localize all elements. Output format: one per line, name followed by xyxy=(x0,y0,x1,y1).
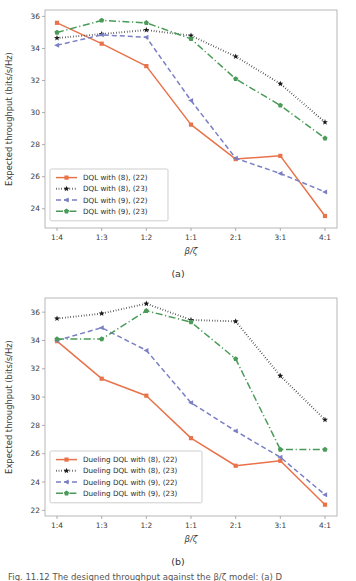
legend-label: DQL with (9), (22) xyxy=(83,196,148,205)
y-tick-label: 30 xyxy=(31,108,41,117)
y-tick-label: 32 xyxy=(31,364,40,373)
y-tick-label: 32 xyxy=(31,76,40,85)
x-axis-title: β/ζ xyxy=(183,246,198,256)
x-tick-label: 1:1 xyxy=(185,521,197,530)
panel-b-caption: (b) xyxy=(0,556,356,567)
x-tick-label: 2:1 xyxy=(230,233,242,242)
legend-label: DQL with (9), (23) xyxy=(83,207,148,216)
x-tick-label: 1:4 xyxy=(51,233,63,242)
x-tick-label: 4:1 xyxy=(319,521,331,530)
chart-a-svg: 242628303234361:41:31:21:12:13:14:1β/ζEx… xyxy=(0,0,356,290)
series-line xyxy=(57,35,325,192)
y-tick-label: 30 xyxy=(31,393,41,402)
y-tick-label: 24 xyxy=(31,478,41,487)
x-tick-label: 3:1 xyxy=(274,233,286,242)
x-tick-label: 1:2 xyxy=(140,233,152,242)
y-tick-label: 22 xyxy=(31,506,40,515)
x-tick-label: 1:3 xyxy=(96,521,108,530)
x-tick-label: 1:1 xyxy=(185,233,197,242)
y-axis-title: Expected throughput (bits/s/Hz) xyxy=(4,340,14,474)
legend-label: Dueling DQL with (8), (22) xyxy=(83,455,178,464)
y-tick-label: 24 xyxy=(31,204,41,213)
chart-b-svg: 22242628303234361:41:31:21:12:13:14:1β/ζ… xyxy=(0,290,356,580)
panel-a-caption: (a) xyxy=(0,268,356,279)
y-tick-label: 28 xyxy=(31,421,41,430)
y-tick-label: 26 xyxy=(31,172,41,181)
x-tick-label: 1:2 xyxy=(140,521,152,530)
chart-panel-b: 22242628303234361:41:31:21:12:13:14:1β/ζ… xyxy=(0,290,356,580)
y-tick-label: 28 xyxy=(31,140,41,149)
x-tick-label: 4:1 xyxy=(319,233,331,242)
x-tick-label: 3:1 xyxy=(274,521,286,530)
figure-container: 242628303234361:41:31:21:12:13:14:1β/ζEx… xyxy=(0,0,356,581)
chart-panel-a: 242628303234361:41:31:21:12:13:14:1β/ζEx… xyxy=(0,0,356,290)
x-tick-label: 1:4 xyxy=(51,521,63,530)
y-tick-label: 36 xyxy=(31,12,41,21)
y-tick-label: 34 xyxy=(31,44,41,53)
y-tick-label: 26 xyxy=(31,449,41,458)
y-tick-label: 34 xyxy=(31,336,41,345)
legend-label: Dueling DQL with (9), (22) xyxy=(83,478,178,487)
legend-label: DQL with (8), (23) xyxy=(83,184,148,193)
legend-label: Dueling DQL with (8), (23) xyxy=(83,466,178,475)
figure-bottom-caption: Fig. 11.12 The designed throughput again… xyxy=(8,572,348,581)
x-axis-title: β/ζ xyxy=(183,534,198,544)
x-tick-label: 2:1 xyxy=(230,521,242,530)
legend-label: Dueling DQL with (9), (23) xyxy=(83,489,178,498)
legend-label: DQL with (8), (22) xyxy=(83,173,148,182)
x-tick-label: 1:3 xyxy=(96,233,108,242)
y-tick-label: 36 xyxy=(31,308,41,317)
y-axis-title: Expected throughput (bits/s/Hz) xyxy=(4,52,14,186)
